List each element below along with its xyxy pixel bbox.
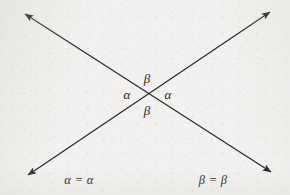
line-sw-ne	[28, 12, 270, 175]
angle-label-beta-top: β	[144, 72, 150, 85]
line-nw-se	[25, 14, 271, 172]
angle-label-alpha-left: α	[124, 88, 131, 101]
intersecting-lines-diagram	[0, 0, 290, 195]
identity-label-alpha: α = α	[64, 174, 93, 187]
angle-label-beta-bottom: β	[144, 104, 150, 117]
angle-label-alpha-right: α	[165, 88, 172, 101]
identity-label-beta: β = β	[199, 174, 228, 187]
geometry-figure: β α α β α = α β = β	[0, 0, 290, 195]
